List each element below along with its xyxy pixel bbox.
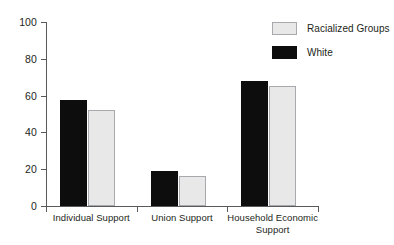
legend-swatch-icon <box>272 22 297 35</box>
y-axis-tick-label: 20 <box>0 164 37 175</box>
bar <box>88 110 115 206</box>
y-axis-tick-label: 100 <box>0 17 37 28</box>
y-axis-tick-label: 40 <box>0 127 37 138</box>
legend-item-racialized-groups: Racialized Groups <box>272 22 390 35</box>
bar <box>179 176 206 206</box>
bar <box>151 171 178 206</box>
legend-label: Racialized Groups <box>307 23 390 34</box>
x-axis-line <box>46 206 319 207</box>
y-axis-tick-label: 0 <box>0 201 37 212</box>
y-axis-tick-label: 60 <box>0 91 37 102</box>
bar <box>241 81 268 206</box>
chart-legend: Racialized Groups White <box>272 22 390 70</box>
bar <box>269 86 296 206</box>
bar-chart: 020406080100 Individual SupportUnion Sup… <box>0 0 394 245</box>
legend-label: White <box>307 47 333 58</box>
legend-swatch-icon <box>272 46 297 59</box>
legend-item-white: White <box>272 46 390 59</box>
bar <box>60 100 87 206</box>
category-label: Household EconomicSupport <box>213 212 332 235</box>
y-axis-tick-label: 80 <box>0 54 37 65</box>
